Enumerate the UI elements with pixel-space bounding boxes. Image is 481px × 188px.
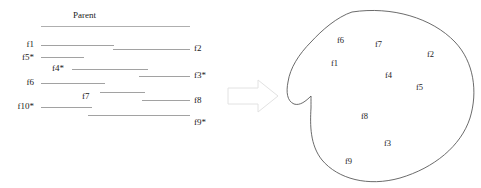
right-fragment-lines [88,50,190,116]
fragment-label-f6: f6 [0,78,34,87]
blob-label-f8: f8 [361,112,368,121]
blob-label-f9: f9 [345,157,352,166]
blob-label-f2: f2 [427,50,434,59]
left-fragment-lines [41,46,148,108]
region-blob-outline [287,10,474,181]
fragment-label-f7: f7 [82,92,90,101]
blob-label-f7: f7 [375,40,382,49]
fragment-label-f3: f3* [194,71,206,80]
blob-label-f3: f3 [384,139,391,148]
fragment-label-f10: f10* [0,102,34,111]
fragment-map-figure: Parent f1 f5* f4* f6 f7 f10* f2 f3* f8 f… [0,0,481,188]
region-blob [287,10,474,181]
blob-label-f4: f4 [385,71,392,80]
right-arrow-icon [228,80,278,112]
fragment-label-f8: f8 [194,96,202,105]
right-arrow-shape [228,80,278,112]
fragment-label-f2: f2 [194,44,202,53]
blob-label-f6: f6 [337,36,344,45]
blob-label-f1: f1 [331,59,338,68]
parent-label: Parent [73,11,125,20]
fragment-label-f5: f5* [0,53,34,62]
fragment-label-f9: f9* [194,118,206,127]
fragment-label-f4: f4* [52,64,64,73]
blob-label-f5: f5 [416,83,423,92]
fragment-label-f1: f1 [0,40,34,49]
figure-canvas [0,0,481,188]
